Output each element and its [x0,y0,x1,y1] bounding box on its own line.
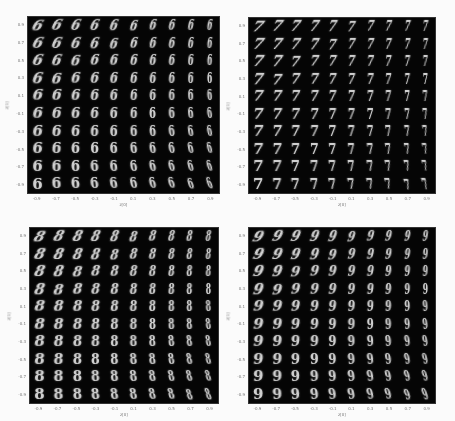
digit-image: 9 [342,228,361,246]
digit-image: 6 [85,52,106,70]
digit-image: 7 [304,71,323,89]
digit-image: 9 [382,281,395,299]
digit-image: 8 [125,263,142,281]
digit-image: 7 [325,158,341,176]
y-tick-label: -0.9 [231,392,245,397]
digit-image: 6 [103,17,124,35]
digit-image: 7 [382,106,394,124]
digit-image: 7 [287,176,305,194]
x-tick-label: 0.3 [146,406,160,411]
digit-image: 8 [184,281,195,299]
digit-image: 9 [305,386,322,404]
digit-image: 9 [420,228,432,246]
digit-image: 6 [28,175,47,193]
digit-image: 9 [267,316,288,334]
digit-image: 7 [420,36,431,54]
y-tick-label: -0.1 [10,111,24,116]
x-tick-label: 0.3 [363,406,377,411]
digit-image: 8 [68,368,85,386]
digit-image: 8 [183,333,196,351]
x-tick-label: 0.9 [420,406,434,411]
y-tick-label: -0.3 [12,339,26,344]
x-axis-label: z[0] [120,412,128,417]
digit-image: 9 [305,316,322,334]
x-tick-label: 0.9 [420,196,434,201]
digit-image: 9 [382,351,396,369]
digit-image: 9 [421,298,431,316]
digit-image: 8 [184,316,196,334]
digit-image: 7 [421,53,431,71]
digit-image: 7 [400,158,414,176]
digit-image: 7 [305,176,322,194]
digit-image: 9 [325,368,341,386]
digit-image: 7 [401,53,413,71]
digit-image: 9 [304,263,324,281]
digit-image: 6 [125,87,140,105]
digit-image: 8 [107,316,123,334]
y-tick-label: 0.1 [231,94,245,99]
digit-image: 8 [106,298,123,316]
x-axis-label: z[0] [338,412,346,417]
digit-image: 6 [184,123,197,141]
digit-image: 8 [87,316,105,334]
digit-image: 6 [184,105,196,123]
digit-image: 9 [305,298,323,316]
digit-image: 8 [105,263,124,281]
x-tick-label: 0.9 [203,196,217,201]
digit-image: 7 [418,176,433,194]
digit-image: 8 [202,333,214,351]
digit-image: 8 [29,333,51,351]
digit-image: 6 [145,70,160,88]
digit-image: 7 [343,53,360,71]
digit-image: 6 [125,70,141,88]
digit-image: 8 [49,386,67,404]
digit-image: 6 [126,123,140,141]
y-tick-label: 0.3 [10,75,24,80]
y-tick-label: 0.9 [10,22,24,27]
digit-image: 6 [205,70,215,88]
digit-image: 9 [325,316,341,334]
digit-image: 7 [286,106,305,124]
digit-image: 6 [146,105,159,123]
y-tick-label: 0.7 [231,41,245,46]
digit-image: 6 [204,35,215,53]
x-tick-label: -0.5 [288,196,302,201]
digit-image: 7 [382,71,395,89]
digit-image: 9 [285,281,306,299]
digit-image: 8 [145,298,159,316]
digit-image: 9 [362,246,378,264]
digit-image: 9 [401,333,414,351]
x-tick-label: -0.1 [326,196,340,201]
digit-image: 9 [363,281,377,299]
digit-image: 7 [420,18,432,36]
y-tick-label: 0.3 [231,286,245,291]
digit-image: 9 [249,368,269,386]
digit-image: 9 [343,263,360,281]
digit-image: 6 [66,123,85,141]
digit-image: 6 [105,70,123,88]
digit-image: 7 [381,176,397,194]
digit-image: 8 [203,298,213,316]
digit-image: 8 [144,228,161,246]
digit-image: 9 [325,333,340,351]
digit-image: 8 [183,351,197,369]
y-tick-label: 0.7 [10,40,24,45]
digit-image: 7 [421,71,430,89]
digit-image: 7 [402,88,413,106]
digit-image: 6 [67,175,85,193]
digit-image: 8 [184,298,195,316]
digit-image: 6 [183,140,197,158]
digit-image: 8 [183,228,197,246]
digit-image: 7 [249,158,269,176]
digit-image: 7 [324,71,342,89]
digit-image: 9 [268,386,286,404]
y-tick-label: -0.7 [10,164,24,169]
digit-image: 9 [324,281,342,299]
digit-image: 6 [85,87,104,105]
x-tick-label: -0.9 [30,196,44,201]
x-tick-label: 0.9 [203,406,217,411]
digit-image: 6 [203,123,215,141]
y-tick-label: -0.5 [231,147,245,152]
y-tick-label: -0.5 [10,147,24,152]
digit-image: 9 [342,246,360,264]
